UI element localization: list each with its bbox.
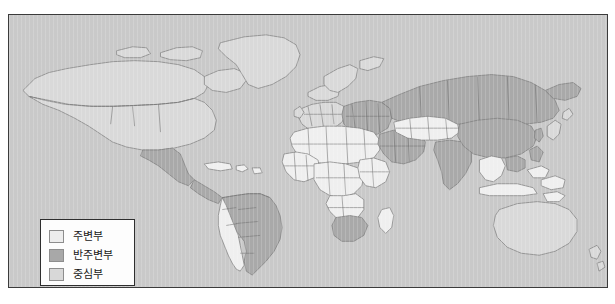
world-map-frame: .lnd{stroke:#7c7c7c;stroke-width:.7;} .c… (8, 14, 608, 288)
legend-label-periphery: 주변부 (73, 230, 103, 243)
legend-item-semi-periphery: 반주변부 (49, 246, 134, 264)
legend-swatch-core (49, 268, 64, 281)
legend-item-periphery: 주변부 (49, 227, 134, 245)
legend-item-core: 중심부 (49, 265, 134, 283)
legend-label-semi-periphery: 반주변부 (73, 249, 113, 262)
map-legend: 주변부 반주변부 중심부 (40, 219, 135, 286)
legend-label-core: 중심부 (73, 268, 103, 281)
figure-container: .lnd{stroke:#7c7c7c;stroke-width:.7;} .c… (0, 0, 615, 304)
legend-swatch-periphery (49, 230, 64, 243)
legend-swatch-semi-periphery (49, 249, 64, 262)
